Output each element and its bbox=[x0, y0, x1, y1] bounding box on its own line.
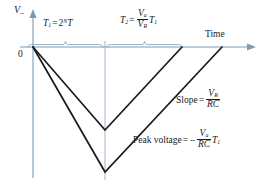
slope-fraction-numerator: VR bbox=[206, 89, 220, 99]
t2-fraction-numerator: Va bbox=[137, 9, 148, 19]
peak-fraction: Va RC bbox=[197, 129, 211, 150]
t2-tail-subscript: 1 bbox=[154, 19, 157, 25]
waveform-figure: V– Time 0 T1=2NT T2= Va VR T1 Slope= VR … bbox=[0, 0, 265, 184]
t1-annotation: T1=2NT bbox=[43, 19, 73, 29]
origin-label: 0 bbox=[18, 50, 23, 60]
t1-equals: = bbox=[51, 18, 58, 28]
t2-num-subscript: a bbox=[144, 13, 147, 19]
t2-fraction-denominator: VR bbox=[137, 19, 148, 30]
x-axis-arrowhead bbox=[247, 43, 256, 50]
y-axis-arrowhead bbox=[29, 9, 36, 18]
peak-num-subscript: a bbox=[205, 133, 208, 139]
t2-fraction: Va VR bbox=[137, 9, 148, 30]
slope-fraction: VR RC bbox=[206, 89, 220, 110]
y-axis-label-subscript: – bbox=[20, 9, 24, 17]
peak-fraction-denominator: RC bbox=[197, 139, 211, 150]
t2-annotation: T2= Va VR T1 bbox=[120, 10, 157, 31]
y-axis bbox=[29, 9, 36, 178]
peak-voltage-annotation: Peak voltage=– Va RC T1 bbox=[133, 130, 220, 151]
peak-label-text: Peak voltage bbox=[133, 135, 182, 145]
slope-fraction-denominator: RC bbox=[206, 99, 220, 110]
t1-period-symbol: T bbox=[67, 18, 72, 28]
t2-den-subscript: R bbox=[143, 24, 147, 30]
peak-tail-subscript: 1 bbox=[217, 139, 220, 145]
peak-fraction-numerator: Va bbox=[197, 129, 211, 139]
y-axis-label: V– bbox=[14, 5, 24, 17]
x-axis-label: Time bbox=[205, 30, 225, 40]
slope-equals: = bbox=[198, 95, 205, 105]
slope-num-subscript: R bbox=[214, 93, 218, 99]
slope-annotation: Slope= VR RC bbox=[176, 90, 221, 111]
slope-label-text: Slope bbox=[176, 95, 198, 105]
t2-equals: = bbox=[128, 15, 135, 25]
waveform-shallow-ramp bbox=[33, 47, 182, 130]
peak-sign: – bbox=[189, 135, 196, 145]
